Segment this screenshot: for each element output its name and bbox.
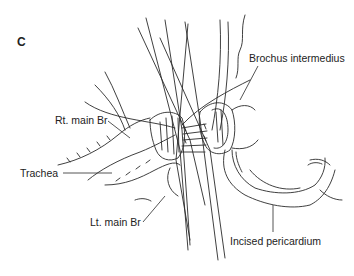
- leader-rt-main-br: [108, 121, 130, 138]
- label-rt-main-br: Rt. main Br: [55, 115, 108, 126]
- leader-brochus-intermedius: [240, 66, 258, 100]
- label-brochus-intermedius: Brochus intermedius: [249, 53, 345, 64]
- label-lt-main-br: Lt. main Br: [90, 217, 141, 228]
- anatomical-diagram: C Rt. main Br Brochus intermedius Trache…: [0, 0, 354, 276]
- leader-lt-main-br: [143, 196, 165, 222]
- panel-letter: C: [17, 36, 26, 48]
- label-trachea: Trachea: [20, 168, 58, 179]
- label-incised-pericardium: Incised pericardium: [230, 236, 321, 247]
